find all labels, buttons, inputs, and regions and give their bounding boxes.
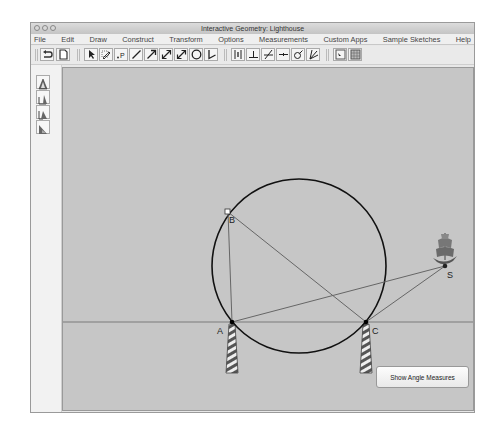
toolbar-separator — [326, 49, 329, 61]
point-s[interactable] — [443, 264, 448, 269]
grid-icon — [350, 49, 361, 60]
app-window: Interactive Geometry: Lighthouse File Ed… — [30, 22, 475, 413]
segment-as[interactable] — [232, 266, 445, 322]
menu-construct[interactable]: Construct — [122, 34, 154, 44]
toolbar-separator — [77, 49, 80, 61]
circle-icon — [191, 49, 202, 60]
angle-tool-2-icon — [37, 108, 49, 120]
select-arrow-icon — [86, 49, 97, 60]
angle-bisector-tool-button[interactable] — [306, 48, 320, 61]
label-a: A — [217, 326, 223, 336]
lighthouse-c-icon — [360, 324, 372, 373]
point-b[interactable] — [225, 209, 230, 214]
point-a[interactable] — [230, 320, 235, 325]
label-c: C — [372, 326, 379, 336]
parallel-tool-button[interactable] — [261, 48, 275, 61]
angle-tool-3-icon — [37, 123, 49, 135]
menu-edit[interactable]: Edit — [61, 34, 74, 44]
segment-bc[interactable] — [228, 212, 366, 322]
new-document-button[interactable] — [56, 48, 70, 61]
segment-cs[interactable] — [366, 266, 445, 322]
angle-tool-button[interactable] — [204, 48, 218, 61]
compass-icon — [293, 49, 304, 60]
undo-icon — [42, 49, 53, 60]
menu-help[interactable]: Help — [456, 34, 471, 44]
new-document-icon — [58, 49, 69, 60]
menu-file[interactable]: File — [34, 34, 46, 44]
point-icon: P — [116, 49, 127, 60]
side-tool-triangle[interactable] — [36, 75, 50, 89]
midpoint-icon — [278, 49, 289, 60]
side-tool-angle-3[interactable] — [36, 120, 50, 134]
menu-measurements[interactable]: Measurements — [259, 34, 308, 44]
side-tool-angle-1[interactable] — [36, 90, 50, 104]
toolbar-grip — [35, 49, 38, 61]
angle-tool-1-icon — [37, 93, 49, 105]
midpoint-tool-button[interactable] — [276, 48, 290, 61]
perpendicular-bisector-icon — [233, 49, 244, 60]
perpendicular-tool-button[interactable] — [246, 48, 260, 61]
show-angle-measures-button[interactable]: Show Angle Measures — [376, 366, 469, 388]
line-tool-button[interactable] — [159, 48, 173, 61]
perpendicular-bisector-tool-button[interactable] — [231, 48, 245, 61]
toolbar-separator — [224, 49, 227, 61]
geometry-drawing — [63, 68, 473, 410]
lighthouse-a-icon — [226, 324, 238, 373]
undo-button[interactable] — [40, 48, 54, 61]
circle-tool-button[interactable] — [189, 48, 203, 61]
label-s: S — [447, 270, 453, 280]
compass-tool-button[interactable] — [291, 48, 305, 61]
zoom-fit-button[interactable] — [333, 48, 347, 61]
sketch-canvas[interactable]: B A C S Show Angle Measures — [62, 67, 474, 411]
triangle-tool-icon — [37, 78, 49, 90]
segment-ab[interactable] — [228, 212, 232, 322]
angle-icon — [206, 49, 217, 60]
vector-icon — [176, 49, 187, 60]
angle-bisector-icon — [308, 49, 319, 60]
menu-sample-sketches[interactable]: Sample Sketches — [383, 34, 441, 44]
window-title: Interactive Geometry: Lighthouse — [31, 23, 474, 34]
select-tool-button[interactable] — [84, 48, 98, 61]
point-tool-button[interactable]: P — [114, 48, 128, 61]
point-c[interactable] — [364, 320, 369, 325]
menu-transform[interactable]: Transform — [169, 34, 202, 44]
toolbar: P — [31, 46, 474, 65]
line-icon — [161, 49, 172, 60]
menu-custom-apps[interactable]: Custom Apps — [323, 34, 367, 44]
vector-tool-button[interactable] — [174, 48, 188, 61]
menu-bar: File Edit Draw Construct Transform Optio… — [31, 34, 474, 45]
perpendicular-icon — [248, 49, 259, 60]
segment-tool-button[interactable] — [129, 48, 143, 61]
ray-tool-button[interactable] — [144, 48, 158, 61]
grid-button[interactable] — [348, 48, 362, 61]
menu-draw[interactable]: Draw — [90, 34, 107, 44]
segment-icon — [131, 49, 142, 60]
side-tool-panel — [31, 65, 62, 412]
ray-icon — [146, 49, 157, 60]
side-tool-angle-2[interactable] — [36, 105, 50, 119]
ship-icon — [433, 233, 457, 264]
svg-text:P: P — [120, 52, 125, 59]
label-b: B — [229, 215, 235, 225]
circle-abc[interactable] — [212, 179, 386, 353]
zoom-fit-icon — [335, 49, 346, 60]
menu-options[interactable]: Options — [218, 34, 243, 44]
pencil-erase-tool-button[interactable] — [99, 48, 113, 61]
pencil-erase-icon — [101, 49, 112, 60]
parallel-icon — [263, 49, 274, 60]
